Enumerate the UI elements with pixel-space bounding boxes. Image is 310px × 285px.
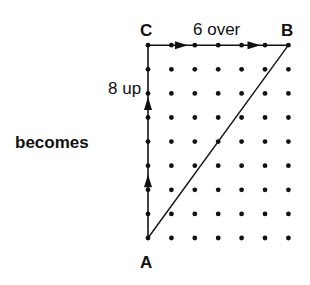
- grid-dot: [146, 43, 151, 48]
- grid-dot: [239, 187, 244, 192]
- grid-dot: [192, 43, 197, 48]
- grid-dot: [263, 236, 268, 241]
- grid-dot: [263, 43, 268, 48]
- grid-dot: [263, 212, 268, 217]
- grid-dot: [169, 67, 174, 72]
- grid-dot: [192, 236, 197, 241]
- grid-dot: [263, 91, 268, 96]
- arrow-right-icon: [247, 41, 260, 49]
- grid-dot: [239, 163, 244, 168]
- grid-dot: [239, 67, 244, 72]
- grid-dot: [192, 139, 197, 144]
- grid-dot: [216, 163, 221, 168]
- grid-dot: [169, 236, 174, 241]
- arrow-up-icon: [144, 174, 152, 187]
- grid-dot: [169, 163, 174, 168]
- grid-dot: [192, 67, 197, 72]
- grid-dot: [263, 139, 268, 144]
- grid-dot: [286, 67, 291, 72]
- arrow-right-icon: [175, 41, 188, 49]
- grid-dot: [286, 91, 291, 96]
- grid-dot: [286, 115, 291, 120]
- grid-dot: [146, 91, 151, 96]
- grid-dot: [169, 43, 174, 48]
- grid-dot: [263, 163, 268, 168]
- grid-dot: [286, 212, 291, 217]
- grid-dot: [146, 115, 151, 120]
- grid-dot: [263, 67, 268, 72]
- grid-dot: [239, 115, 244, 120]
- grid-dot: [263, 115, 268, 120]
- arrow-up-icon: [144, 97, 152, 110]
- grid-dot: [146, 67, 151, 72]
- grid-dot: [239, 139, 244, 144]
- grid-dot: [263, 187, 268, 192]
- grid-dot: [216, 115, 221, 120]
- grid-dot: [216, 187, 221, 192]
- grid-dot: [216, 236, 221, 241]
- grid-dot: [146, 212, 151, 217]
- grid-dot: [146, 236, 151, 241]
- grid-dot: [192, 163, 197, 168]
- grid-dot: [192, 91, 197, 96]
- grid-dot: [192, 187, 197, 192]
- grid-dot: [286, 139, 291, 144]
- grid-dot: [286, 163, 291, 168]
- grid-dot: [146, 163, 151, 168]
- grid-dot: [169, 115, 174, 120]
- grid-dot: [192, 115, 197, 120]
- grid-dot: [239, 212, 244, 217]
- grid-dot: [286, 187, 291, 192]
- grid-dot: [216, 212, 221, 217]
- grid-dot: [239, 43, 244, 48]
- dot-grid-diagram: [0, 0, 310, 285]
- grid-dot: [216, 139, 221, 144]
- grid-dot: [239, 91, 244, 96]
- grid-dot: [146, 139, 151, 144]
- grid-dot: [216, 91, 221, 96]
- grid-dot: [239, 236, 244, 241]
- grid-dot: [216, 43, 221, 48]
- grid-dot: [192, 212, 197, 217]
- grid-dot: [146, 187, 151, 192]
- grid-dot: [286, 43, 291, 48]
- grid-dot: [286, 236, 291, 241]
- grid-dot: [169, 91, 174, 96]
- grid-dot: [169, 139, 174, 144]
- grid-dot: [216, 67, 221, 72]
- grid-dot: [169, 187, 174, 192]
- grid-dot: [169, 212, 174, 217]
